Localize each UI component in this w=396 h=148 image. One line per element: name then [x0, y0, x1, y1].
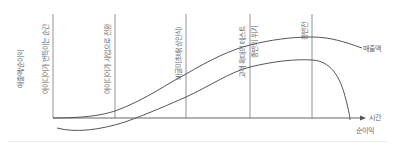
phase-label-1: 아이디어가 번뜩이는 순간 — [42, 24, 50, 94]
x-axis-label: 시간 — [369, 114, 381, 122]
x-axis-arrow-icon — [360, 116, 366, 121]
phase-label-3: 비굴미초바(상인식) — [175, 27, 183, 80]
sales-curve — [53, 37, 362, 118]
sales-label: 매출액 — [363, 45, 381, 53]
phase-label-4b: 종반의 위기 — [251, 26, 259, 58]
y-axis-label: 매출액/순이익 — [17, 50, 25, 88]
divider — [8, 141, 388, 142]
phase-label-2: 아이디어가 사업으로 전환 — [104, 24, 112, 94]
profit-label: 순이익 — [356, 127, 374, 135]
phase-label-4: 고객 확대의 테스트 — [239, 26, 247, 78]
phase-label-5: 종반전 — [301, 22, 309, 40]
lifecycle-chart — [0, 0, 396, 148]
profit-curve — [57, 60, 350, 131]
